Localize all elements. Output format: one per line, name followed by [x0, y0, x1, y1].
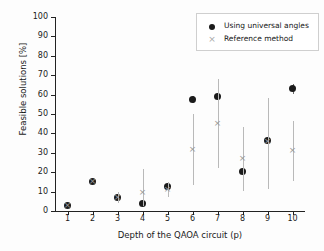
legend-label: Using universal angles — [224, 19, 309, 33]
y-tick-label: 10 — [28, 188, 48, 196]
legend-entry-universal-angles: Using universal angles — [197, 19, 318, 33]
legend-dot-marker — [205, 19, 219, 33]
y-tick-label: 40 — [28, 129, 48, 137]
y-tick-label: 50 — [28, 110, 48, 118]
data-point-universal-angles — [289, 85, 296, 92]
y-tick-label: 70 — [28, 71, 48, 79]
legend-cross-marker: × — [205, 32, 219, 46]
x-tick-label: 10 — [283, 215, 303, 223]
data-point-reference-method — [138, 188, 147, 197]
x-tick-label: 1 — [58, 215, 78, 223]
y-tick-label: 0 — [28, 207, 48, 215]
data-point-reference-method — [213, 119, 222, 128]
x-tick-label: 8 — [233, 215, 253, 223]
x-tick-label: 3 — [108, 215, 128, 223]
x-tick-label: 9 — [258, 215, 278, 223]
x-tick-label: 2 — [83, 215, 103, 223]
data-point-reference-method — [163, 185, 172, 194]
chart-legend: Using universal angles × Reference metho… — [196, 13, 319, 51]
y-axis-label: Feasible solutions [%] — [18, 14, 28, 164]
x-tick-label: 4 — [133, 215, 153, 223]
y-tick-label: 80 — [28, 52, 48, 60]
data-point-reference-method — [188, 145, 197, 154]
chart-figure: 0102030405060708090100 12345678910 Feasi… — [0, 0, 324, 251]
data-point-reference-method — [263, 137, 272, 146]
legend-label: Reference method — [224, 32, 293, 46]
x-axis-label: Depth of the QAOA circuit (p) — [55, 230, 305, 240]
y-tick-label: 20 — [28, 168, 48, 176]
x-tick-label: 7 — [208, 215, 228, 223]
data-point-reference-method — [288, 146, 297, 155]
y-tick-mark — [51, 211, 55, 212]
data-point-universal-angles — [189, 96, 196, 103]
legend-entry-reference-method: × Reference method — [197, 32, 318, 46]
data-point-reference-method — [113, 193, 122, 202]
data-point-reference-method — [63, 201, 72, 210]
data-point-reference-method — [238, 154, 247, 163]
y-tick-label: 30 — [28, 149, 48, 157]
data-point-reference-method — [88, 177, 97, 186]
y-tick-label: 60 — [28, 91, 48, 99]
x-tick-label: 5 — [158, 215, 178, 223]
y-tick-label: 100 — [28, 13, 48, 21]
x-tick-label: 6 — [183, 215, 203, 223]
y-tick-label: 90 — [28, 32, 48, 40]
